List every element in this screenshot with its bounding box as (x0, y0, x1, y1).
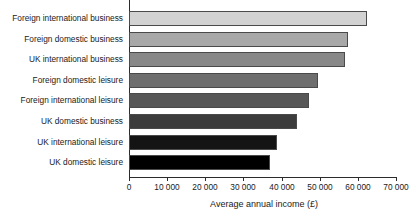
x-tick-label: 30 000 (230, 182, 255, 192)
x-tick-mark (167, 177, 168, 181)
x-tick-mark (282, 177, 283, 181)
x-tick-label: 0 (127, 182, 132, 192)
category-axis-labels: Foreign international businessForeign do… (0, 0, 126, 178)
x-tick-mark (129, 177, 130, 181)
x-tick-mark (243, 177, 244, 181)
category-label: UK domestic business (41, 117, 123, 126)
x-tick-mark (358, 177, 359, 181)
x-tick-label: 20 000 (192, 182, 217, 192)
x-tick-label: 40 000 (269, 182, 294, 192)
bar (129, 73, 318, 88)
category-label: Foreign domestic business (24, 35, 123, 44)
x-tick-label: 60 000 (345, 182, 370, 192)
x-tick-label: 70 000 (383, 182, 408, 192)
x-tick-mark (396, 177, 397, 181)
bar (129, 11, 367, 26)
plot-area (129, 0, 399, 178)
x-tick-mark (320, 177, 321, 181)
category-label: Foreign domestic leisure (33, 76, 123, 85)
bar (129, 135, 277, 150)
category-label: UK international leisure (37, 138, 123, 147)
category-label: Foreign international business (12, 14, 123, 23)
bar (129, 93, 309, 108)
x-tick-label: 50 000 (307, 182, 332, 192)
x-tick-label: 10 000 (154, 182, 179, 192)
bar (129, 114, 297, 129)
bar (129, 155, 270, 170)
bar (129, 52, 345, 67)
category-label: UK domestic leisure (49, 158, 123, 167)
bar-chart: Foreign international businessForeign do… (0, 0, 416, 220)
category-label: Foreign international leisure (21, 96, 123, 105)
category-label: UK international business (29, 55, 123, 64)
x-axis-title: Average annual income (£) (129, 199, 399, 210)
bar (129, 32, 348, 47)
x-tick-mark (205, 177, 206, 181)
